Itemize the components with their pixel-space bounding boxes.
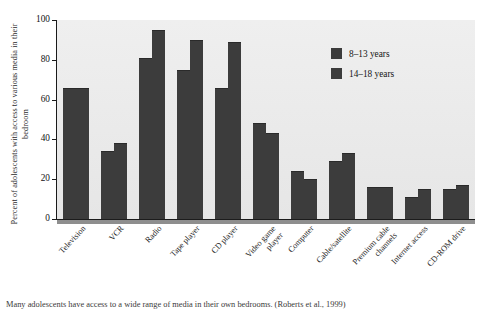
bar <box>342 153 355 219</box>
bar <box>76 88 89 219</box>
bar <box>418 189 431 219</box>
y-axis-title: Percent of adolescents with access to va… <box>2 17 38 232</box>
legend-item: 14–18 years <box>331 65 394 82</box>
x-axis-tick-label: Radio <box>143 224 164 245</box>
bar <box>291 171 304 219</box>
bar <box>304 179 317 219</box>
bar-series-layer <box>57 20 475 219</box>
bar <box>228 42 241 219</box>
legend-label: 14–18 years <box>349 69 394 79</box>
figure-container: Percent of adolescents with access to va… <box>0 0 493 311</box>
bar-group <box>291 20 318 219</box>
bar-group <box>443 20 470 219</box>
figure-caption: Many adolescents have access to a wide r… <box>6 300 493 310</box>
x-axis-tick-label: VCR <box>107 224 126 243</box>
y-axis-tick-label: 40 <box>22 133 50 143</box>
bar <box>63 88 76 219</box>
bar <box>114 143 127 219</box>
bar <box>190 40 203 219</box>
bar-group <box>139 20 166 219</box>
x-axis-tick-label: Computer <box>286 224 316 255</box>
y-axis-tick-label: 60 <box>22 94 50 104</box>
bar <box>266 133 279 219</box>
bar <box>380 187 393 219</box>
bar-group <box>405 20 432 219</box>
bar <box>177 70 190 219</box>
chart-legend: 8–13 years14–18 years <box>331 45 394 85</box>
bar <box>215 88 228 219</box>
bar <box>367 187 380 219</box>
bar <box>405 197 418 219</box>
bar <box>456 185 469 219</box>
x-axis-tick-label: CD-ROM drive <box>425 224 468 269</box>
x-axis-labels: TelevisionVCRRadioTape playerCD playerVi… <box>57 224 475 296</box>
y-axis-tick-label: 100 <box>22 14 50 24</box>
bar-group <box>177 20 204 219</box>
bar-group <box>101 20 128 219</box>
y-axis-tick-label: 0 <box>22 213 50 223</box>
x-axis-tick-label: Television <box>57 224 88 256</box>
x-axis-tick-label: Cable/satellite <box>314 224 353 265</box>
bar <box>139 58 152 219</box>
bar <box>443 189 456 219</box>
legend-item: 8–13 years <box>331 45 394 62</box>
bar <box>152 30 165 219</box>
bar <box>253 123 266 219</box>
bar-group <box>215 20 242 219</box>
legend-swatch <box>331 68 342 79</box>
bar <box>329 161 342 219</box>
legend-swatch <box>331 48 342 59</box>
bar-group <box>63 20 90 219</box>
y-axis-tick-label: 20 <box>22 173 50 183</box>
y-axis-tick-label: 80 <box>22 54 50 64</box>
x-axis-tick-label: CD player <box>209 224 239 256</box>
bar-group <box>253 20 280 219</box>
legend-label: 8–13 years <box>349 49 390 59</box>
x-axis-tick-label: Tape player <box>168 224 201 259</box>
bar <box>101 151 114 219</box>
